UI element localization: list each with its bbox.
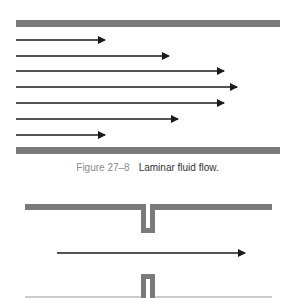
orifice-tab-lower [141,274,155,298]
diagram-canvas [0,0,295,298]
figure-caption-text: Laminar fluid flow. [139,162,219,173]
velocity-arrows [16,40,237,135]
figure-caption: Figure 27–8Laminar fluid flow. [0,162,295,173]
figure-label: Figure 27–8 [76,162,129,173]
